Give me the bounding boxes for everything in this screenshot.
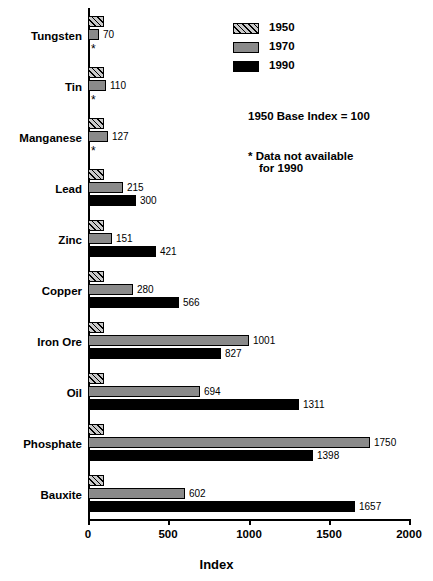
bar-iron-ore-1990	[88, 348, 221, 359]
bar-iron-ore-1950	[88, 322, 104, 333]
category-label-oil: Oil	[67, 387, 82, 399]
x-axis-title: Index	[0, 557, 433, 572]
bar-bauxite-1970	[88, 488, 185, 499]
bar-zinc-1950	[88, 220, 104, 231]
x-tick-label-0: 0	[85, 528, 91, 540]
bar-lead-1950	[88, 169, 104, 180]
legend-item-1970: 1970	[233, 39, 383, 58]
bar-lead-1990	[88, 195, 136, 206]
bar-value-oil-1970: 694	[204, 386, 221, 397]
bar-zinc-1990	[88, 246, 156, 257]
x-tick-500	[168, 519, 170, 525]
bar-tungsten-1970	[88, 29, 99, 40]
category-label-iron-ore: Iron Ore	[37, 336, 82, 348]
data-unavailable-note: * Data not available for 1990	[248, 150, 353, 174]
category-label-tungsten: Tungsten	[31, 30, 82, 42]
legend-item-1990: 1990	[233, 58, 383, 77]
base-index-note: 1950 Base Index = 100	[248, 110, 370, 122]
bar-value-bauxite-1990: 1657	[359, 501, 381, 512]
bar-tin-1970	[88, 80, 106, 91]
bar-manganese-1950	[88, 118, 104, 129]
x-tick-label-500: 500	[158, 528, 177, 540]
legend-label-1990: 1990	[269, 59, 295, 71]
bar-iron-ore-1970	[88, 335, 249, 346]
category-label-lead: Lead	[55, 183, 82, 195]
category-label-phosphate: Phosphate	[23, 438, 82, 450]
bar-value-phosphate-1990: 1398	[317, 450, 339, 461]
bar-value-manganese-1970: 127	[112, 131, 129, 142]
category-label-tin: Tin	[65, 81, 82, 93]
bar-value-copper-1970: 280	[137, 284, 154, 295]
bar-value-lead-1990: 300	[140, 195, 157, 206]
legend: 1950 1970 1990	[233, 20, 383, 77]
data-unavailable-note-line1: * Data not available	[248, 150, 353, 162]
bar-value-zinc-1990: 421	[160, 246, 177, 257]
legend-swatch-1950	[233, 23, 259, 34]
category-axis: Tungsten Tin Manganese Lead Zinc Copper …	[0, 8, 82, 519]
bar-copper-1990	[88, 297, 179, 308]
category-label-manganese: Manganese	[19, 132, 82, 144]
plot-area: 0 500 1000 1500 2000 70 * 110 * 127 *	[88, 8, 410, 519]
bar-tin-1950	[88, 67, 104, 78]
bar-bauxite-1950	[88, 475, 104, 486]
bar-phosphate-1990	[88, 450, 313, 461]
data-unavailable-note-line2: for 1990	[259, 162, 353, 174]
bar-value-phosphate-1970: 1750	[374, 437, 396, 448]
category-label-zinc: Zinc	[58, 234, 82, 246]
x-tick-label-1500: 1500	[316, 528, 342, 540]
bar-value-oil-1990: 1311	[303, 399, 325, 410]
bar-tungsten-1950	[88, 16, 104, 27]
bar-zinc-1970	[88, 233, 112, 244]
category-label-copper: Copper	[42, 285, 82, 297]
bar-value-iron-ore-1990: 827	[225, 348, 242, 359]
x-tick-1000	[249, 519, 251, 525]
bar-value-zinc-1970: 151	[116, 233, 133, 244]
bar-bauxite-1990	[88, 501, 355, 512]
bar-value-manganese-1990: *	[91, 146, 96, 156]
bar-value-copper-1990: 566	[183, 297, 200, 308]
legend-swatch-1990	[233, 61, 259, 72]
legend-item-1950: 1950	[233, 20, 383, 39]
bar-value-tungsten-1990: *	[91, 44, 96, 54]
x-tick-label-1000: 1000	[236, 528, 262, 540]
bar-copper-1950	[88, 271, 104, 282]
bar-lead-1970	[88, 182, 123, 193]
bar-chart: Tungsten Tin Manganese Lead Zinc Copper …	[0, 0, 433, 581]
bar-value-tungsten-1970: 70	[103, 29, 114, 40]
legend-label-1970: 1970	[269, 40, 295, 52]
bar-oil-1970	[88, 386, 200, 397]
bar-value-bauxite-1970: 602	[189, 488, 206, 499]
legend-swatch-1970	[233, 42, 259, 53]
x-tick-0	[88, 519, 90, 525]
bar-oil-1950	[88, 373, 104, 384]
bar-value-lead-1970: 215	[127, 182, 144, 193]
bar-phosphate-1950	[88, 424, 104, 435]
legend-label-1950: 1950	[269, 21, 295, 33]
bar-value-tin-1970: 110	[110, 80, 126, 91]
bar-manganese-1970	[88, 131, 108, 142]
bar-phosphate-1970	[88, 437, 370, 448]
bar-value-tin-1990: *	[91, 95, 96, 105]
bar-value-iron-ore-1970: 1001	[253, 335, 275, 346]
x-tick-2000	[409, 519, 411, 525]
bar-copper-1970	[88, 284, 133, 295]
category-label-bauxite: Bauxite	[40, 489, 82, 501]
x-tick-1500	[329, 519, 331, 525]
bar-oil-1990	[88, 399, 299, 410]
x-tick-label-2000: 2000	[396, 528, 422, 540]
